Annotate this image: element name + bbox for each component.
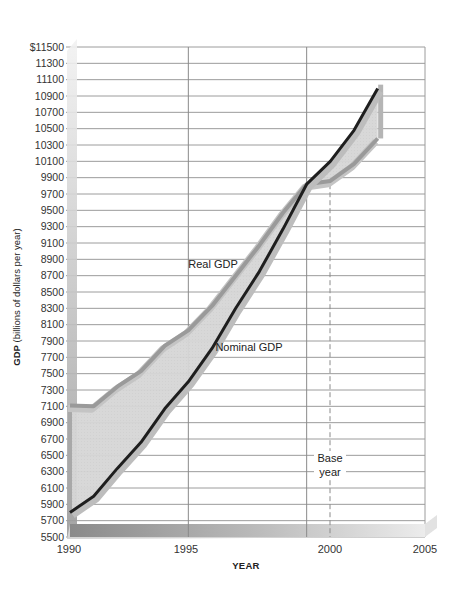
y-tick-label: 8700 bbox=[41, 269, 65, 281]
y-tick-label: 10700 bbox=[35, 106, 64, 118]
y-tick-label: 9100 bbox=[41, 237, 65, 249]
bottom-3d-floor bbox=[67, 515, 437, 539]
x-axis-ticks: 1990199520002005 bbox=[57, 543, 437, 555]
annotations: Real GDPNominal GDPBaseyear bbox=[188, 258, 346, 479]
y-tick-label: 10900 bbox=[35, 90, 64, 102]
y-tick-label: 8900 bbox=[41, 253, 65, 265]
y-axis-label: GDP (billions of dollars per year) bbox=[11, 228, 22, 365]
y-tick-label: 6300 bbox=[41, 465, 65, 477]
annotation-nominal-gdp: Nominal GDP bbox=[215, 341, 282, 353]
gdp-line-chart: $115001130011100109001070010500103001010… bbox=[0, 0, 461, 597]
floor-end bbox=[425, 515, 437, 537]
annotation-base: Base bbox=[317, 452, 342, 464]
y-tick-label: 7300 bbox=[41, 384, 65, 396]
annotation-year: year bbox=[319, 466, 341, 478]
y-tick-label: 11300 bbox=[36, 57, 65, 69]
x-tick-label: 2005 bbox=[413, 543, 437, 555]
gap-band bbox=[70, 85, 381, 513]
y-tick-label: 6700 bbox=[41, 433, 65, 445]
y-axis-label-bold: GDP bbox=[11, 344, 22, 365]
y-tick-label: 6100 bbox=[41, 482, 65, 494]
y-tick-label: 10100 bbox=[35, 155, 64, 167]
y-tick-label: 7700 bbox=[41, 351, 65, 363]
y-tick-label: 9700 bbox=[41, 188, 65, 200]
y-tick-label: 9500 bbox=[41, 204, 65, 216]
y-axis-label-rest: (billions of dollars per year) bbox=[11, 228, 22, 345]
y-tick-label: 7900 bbox=[41, 335, 65, 347]
y-tick-label: 8500 bbox=[41, 286, 65, 298]
y-axis-ticks: $115001130011100109001070010500103001010… bbox=[30, 41, 64, 543]
y-tick-label: 5700 bbox=[41, 514, 65, 526]
y-tick-label: 11100 bbox=[36, 73, 64, 85]
y-tick-label: 6900 bbox=[41, 416, 65, 428]
y-tick-label: 10300 bbox=[35, 139, 64, 151]
x-tick-label: 2000 bbox=[318, 543, 342, 555]
y-tick-label: $11500 bbox=[30, 41, 64, 53]
floor-face bbox=[70, 524, 425, 537]
gap-area bbox=[70, 89, 378, 513]
y-tick-label: 5900 bbox=[41, 498, 65, 510]
x-axis-label: YEAR bbox=[232, 560, 260, 571]
y-tick-label: 7500 bbox=[41, 367, 65, 379]
y-tick-label: 8300 bbox=[41, 302, 65, 314]
real-gdp-line bbox=[70, 139, 378, 407]
y-tick-label: 9300 bbox=[41, 220, 65, 232]
annotation-real-gdp: Real GDP bbox=[188, 258, 238, 270]
y-tick-label: 5500 bbox=[41, 531, 65, 543]
x-tick-label: 1995 bbox=[174, 543, 198, 555]
y-tick-label: 6500 bbox=[41, 449, 65, 461]
y-tick-label: 10500 bbox=[35, 122, 64, 134]
y-tick-label: 8100 bbox=[41, 318, 65, 330]
x-tick-label: 1990 bbox=[57, 543, 81, 555]
y-tick-label: 7100 bbox=[41, 400, 65, 412]
y-tick-label: 9900 bbox=[41, 171, 65, 183]
